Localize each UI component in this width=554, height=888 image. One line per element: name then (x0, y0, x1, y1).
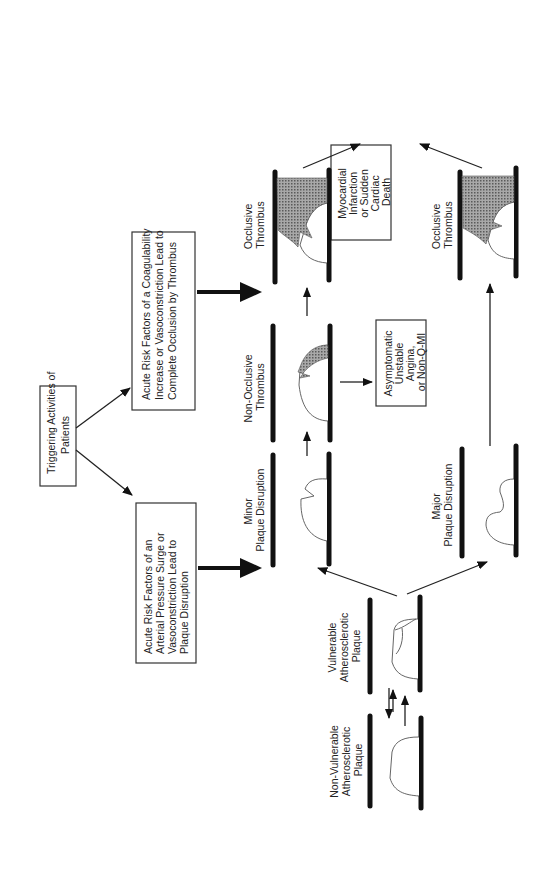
arrow-occlusive-bottom-to-outcome (420, 144, 482, 168)
major-disruption-vessel-icon (462, 446, 516, 556)
non-occlusive-vessel-icon (273, 326, 330, 440)
arrow-trigger-to-coagulability (76, 388, 130, 428)
coagulability-label: Acute Risk Factors of a Coagulability In… (140, 226, 178, 401)
pressure-node: Acute Risk Factors of an Arterial Pressu… (136, 503, 196, 663)
thick-arrows (197, 282, 262, 578)
coagulability-node: Acute Risk Factors of a Coagulability In… (132, 226, 195, 411)
arrow-trigger-to-pressure (76, 450, 132, 495)
occlusive-bottom-vessel-icon (460, 168, 516, 278)
non-occlusive-label: Non-Occlusive Thrombus (242, 351, 266, 422)
minor-label: Minor Plaque Disruption (242, 468, 266, 551)
occlusive-bottom-label: Occlusive Thrombus (430, 201, 454, 249)
major-label: Major Plaque Disruption (430, 463, 454, 546)
vulnerable-vessel-icon (370, 597, 420, 692)
vulnerable-label: Vulnerable Atherosclerotic Plaque (326, 610, 362, 682)
arrow-vulnerable-to-major (407, 562, 487, 594)
non-vulnerable-label: Non-Vulnerable Atherosclerotic Plaque (328, 722, 364, 798)
minor-disruption-vessel-icon (273, 454, 329, 565)
outcome-node: Myocardial Infarction or Sudden Cardiac … (331, 145, 392, 240)
occlusive-top-vessel-icon (275, 170, 329, 282)
asymptomatic-node: Asymptomatic Unstable Angina, or Non-Q-M… (376, 320, 427, 406)
plaque-progression-diagram: Triggering Activities of Patients Acute … (0, 0, 554, 888)
occlusive-top-label: Occlusive Thrombus (242, 201, 266, 249)
non-vulnerable-vessel-icon (370, 716, 421, 808)
arrow-vulnerable-to-minor (318, 568, 397, 596)
trigger-node: Triggering Activities of Patients (40, 369, 76, 486)
